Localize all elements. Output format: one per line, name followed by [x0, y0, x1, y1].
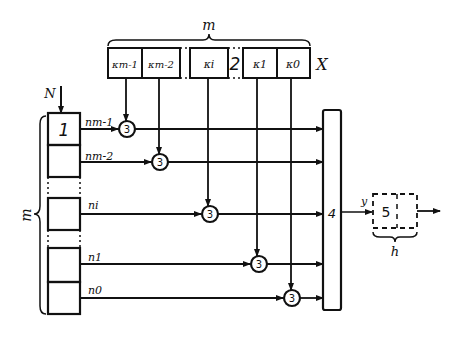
brace-m-top [108, 34, 310, 46]
register-n-cell-n0 [48, 282, 80, 314]
cell-label-km-2: κm-2 [147, 59, 174, 70]
register-n-cell-n1 [48, 248, 80, 282]
brace-label-m: m [202, 17, 215, 33]
multiplier-i: 3 [202, 206, 218, 222]
separator-label-2: 2 [230, 54, 241, 74]
multiplier-n1: 3 [251, 256, 267, 272]
output-block-label-5: 5 [382, 204, 391, 220]
register-x-label: X [314, 55, 328, 74]
output-label-nm-2: nm-2 [85, 150, 113, 163]
brace-label-m-left: m [18, 208, 34, 221]
register-n-cell-2 [48, 145, 80, 177]
svg-text:3: 3 [289, 293, 295, 304]
cell-label-ki: κi [203, 58, 215, 71]
output-label-y: y [360, 195, 368, 208]
brace-m-left [34, 116, 46, 314]
svg-text:3: 3 [207, 209, 213, 220]
multiplier-1: 3 [119, 121, 135, 137]
cell-label-k0: κ0 [285, 58, 300, 71]
block-label-1: 1 [59, 120, 70, 140]
output-label-n1: n1 [88, 251, 102, 264]
svg-text:3: 3 [124, 124, 130, 135]
input-label-n: N [43, 86, 56, 101]
cell-label-k1: κ1 [252, 58, 267, 71]
register-n-cell-i [48, 198, 80, 230]
register-n [48, 113, 80, 314]
svg-text:3: 3 [157, 157, 163, 168]
adder-label-4: 4 [328, 206, 336, 221]
brace-label-h: h [391, 244, 399, 259]
output-label-ni: ni [88, 199, 99, 212]
output-label-nm-1: nm-1 [85, 116, 113, 129]
cell-label-km-1: κm-1 [111, 59, 138, 70]
block-diagram: m κm-1 κm-2 κi 2 κ1 κ0 X N 1 m nm-1 nm-2… [0, 0, 456, 339]
output-block-5 [373, 194, 417, 228]
multiplier-2: 3 [152, 154, 168, 170]
svg-text:3: 3 [256, 259, 262, 270]
output-label-n0: n0 [88, 284, 102, 297]
multiplier-n0: 3 [284, 290, 300, 306]
k-lines [126, 78, 291, 290]
brace-h [373, 232, 417, 242]
